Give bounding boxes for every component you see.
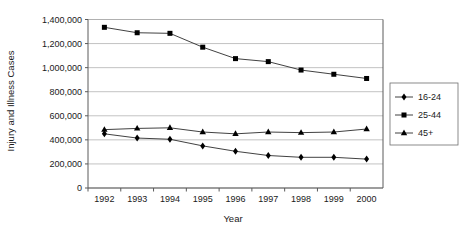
data-point-16-24-1996 [233,148,238,155]
series-line-16-24 [104,134,366,159]
data-point-45+-1999 [331,129,337,135]
gridlines [88,20,383,189]
data-point-25-44-1992 [102,25,107,30]
x-tick-label-6: 1998 [291,194,311,204]
data-point-16-24-1994 [167,136,172,143]
data-point-25-44-1994 [167,31,172,36]
y-tick-label-5: 1,000,000 [42,63,82,73]
y-tick-label-0: 0 [77,183,82,193]
x-tick-label-7: 1999 [324,194,344,204]
y-tick-label-6: 1,200,000 [42,39,82,49]
y-tick-label-4: 800,000 [49,87,82,97]
data-point-45+-1998 [298,129,304,135]
data-point-16-24-1997 [266,152,271,159]
x-tick-label-8: 2000 [357,194,377,204]
x-axis-tick-labels: 199219931994199519961997199819992000 [88,188,377,204]
data-point-45+-1992 [101,126,107,132]
data-point-45+-1994 [167,124,173,130]
data-point-16-24-1993 [135,135,140,142]
x-tick-label-2: 1994 [160,194,180,204]
x-axis-title: Year [223,213,242,224]
legend-marker-square-icon [402,113,407,118]
data-point-45+-1997 [265,129,271,135]
x-tick-label-4: 1996 [225,194,245,204]
x-tick-label-5: 1997 [258,194,278,204]
data-point-25-44-1997 [266,59,271,64]
data-point-25-44-1999 [331,72,336,77]
x-tick-label-1: 1993 [127,194,147,204]
y-axis-tick-labels: 0200,000400,000600,000800,0001,000,0001,… [42,15,88,194]
series-line-25-44 [104,27,366,78]
data-point-16-24-1998 [299,154,304,161]
data-point-45+-1993 [134,125,140,131]
data-point-16-24-1995 [200,142,205,149]
legend-label-16-24: 16-24 [418,92,441,102]
line-chart: 0200,000400,000600,000800,0001,000,0001,… [0,0,466,235]
data-point-16-24-1999 [331,154,336,161]
axis-lines [88,20,383,189]
legend-label-25-44: 25-44 [418,110,441,120]
chart-container: 0200,000400,000600,000800,0001,000,0001,… [0,0,466,235]
data-point-25-44-2000 [364,76,369,81]
legend-label-45+: 45+ [418,128,433,138]
chart-legend: 16-2425-4445+ [390,83,458,145]
y-tick-label-7: 1,400,000 [42,15,82,25]
y-axis-title: Injury and Illness Cases [5,50,16,151]
y-tick-label-2: 400,000 [49,135,82,145]
series-45+ [101,124,370,136]
x-tick-label-0: 1992 [94,194,114,204]
data-series [101,25,370,163]
data-point-25-44-1995 [200,45,205,50]
data-point-16-24-2000 [364,156,369,163]
series-25-44 [102,25,369,81]
x-tick-label-3: 1995 [193,194,213,204]
data-point-45+-2000 [363,126,369,132]
data-point-25-44-1996 [233,56,238,61]
data-point-25-44-1998 [299,68,304,73]
y-tick-label-3: 600,000 [49,111,82,121]
data-point-45+-1996 [232,130,238,136]
y-tick-label-1: 200,000 [49,159,82,169]
data-point-25-44-1993 [135,30,140,35]
